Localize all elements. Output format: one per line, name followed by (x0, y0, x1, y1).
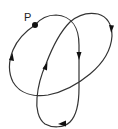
arrow-down-vertical-strand-icon (77, 52, 82, 60)
point-p-marker (32, 22, 38, 28)
arrow-down-right-loop-icon (109, 25, 114, 33)
closed-curve-path (10, 13, 112, 126)
point-p-label: P (24, 11, 31, 23)
closed-curve-diagram: P (0, 0, 118, 129)
